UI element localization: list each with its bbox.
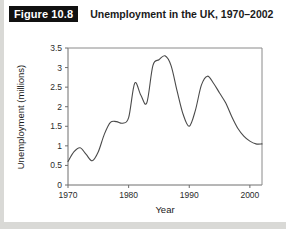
x-axis-group: 1970198019902000 Year (59, 185, 262, 215)
x-tick-label: 2000 (240, 190, 259, 200)
y-tick-label: 2 (57, 102, 62, 112)
x-tick-group: 1970198019902000 (59, 185, 260, 200)
figure-header: Figure 10.8 Unemployment in the UK, 1970… (4, 0, 286, 27)
figure-card: Figure 10.8 Unemployment in the UK, 1970… (4, 0, 286, 222)
unemployment-series-line (68, 56, 262, 162)
y-tick-label: 3.5 (50, 43, 62, 53)
figure-title: Unemployment in the UK, 1970–2002 (90, 8, 273, 20)
y-tick-label: 0.5 (50, 160, 62, 170)
y-axis-group: 00.511.522.533.5 Unemployment (millions) (15, 43, 68, 190)
figure-number-badge: Figure 10.8 (9, 6, 78, 22)
x-tick-label: 1980 (119, 190, 138, 200)
unemployment-line-chart: 00.511.522.533.5 Unemployment (millions)… (4, 27, 286, 222)
y-tick-label: 3 (57, 63, 62, 73)
chart-svg: 00.511.522.533.5 Unemployment (millions)… (4, 27, 286, 222)
x-tick-label: 1990 (180, 190, 199, 200)
y-tick-label: 1.5 (50, 121, 62, 131)
y-axis-title: Unemployment (millions) (15, 65, 26, 170)
y-tick-label: 2.5 (50, 82, 62, 92)
y-tick-label: 1 (57, 141, 62, 151)
y-tick-group: 00.511.522.533.5 (50, 43, 68, 190)
plot-frame (68, 48, 262, 185)
y-tick-label: 0 (57, 180, 62, 190)
x-axis-title: Year (155, 204, 174, 215)
x-tick-label: 1970 (59, 190, 78, 200)
